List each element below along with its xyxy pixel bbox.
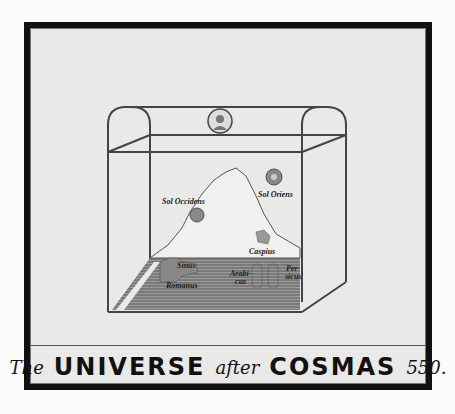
label-sol-oriens: Sol Oriens <box>258 191 293 199</box>
label-sinus: Sinus <box>177 262 196 270</box>
label-romanus: Romanus <box>166 282 198 290</box>
cosmos-diagram <box>0 0 455 414</box>
label-sol-occidens: Sol Occidens <box>162 198 205 206</box>
label-caspius: Caspius <box>249 248 275 256</box>
right-arch <box>302 107 346 302</box>
sun-oriens-icon <box>266 169 282 185</box>
label-arabicus: Arabi- cus <box>230 270 251 286</box>
arabian-gulf <box>252 264 262 288</box>
medallion-icon <box>208 109 232 133</box>
sun-occidens-icon <box>190 208 204 222</box>
label-persicus: Per- sicus <box>285 265 301 281</box>
persian-gulf <box>268 264 278 288</box>
